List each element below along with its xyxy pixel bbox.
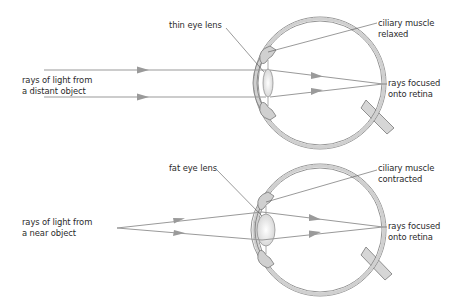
arrow-icon — [173, 230, 185, 236]
eye-distant — [44, 17, 394, 149]
leader-lens — [217, 170, 262, 216]
focus-label-bottom: rays focused onto retina — [388, 221, 440, 242]
eye-accommodation-diagram — [0, 0, 456, 302]
arrow-icon — [137, 67, 149, 74]
muscle-label-contracted: ciliary muscle contracted — [378, 163, 434, 184]
arrow-icon — [311, 72, 323, 79]
thin-lens — [263, 69, 273, 97]
eye-near — [117, 164, 392, 296]
arrow-icon — [137, 94, 149, 101]
source-label-distant: rays of light from a distant object — [22, 75, 92, 96]
fat-lens — [257, 214, 275, 246]
focus-label-top: rays focused onto retina — [388, 78, 440, 99]
lens-label-thin: thin eye lens — [169, 20, 222, 31]
muscle-label-relaxed: ciliary muscle relaxed — [378, 18, 434, 39]
source-label-near: rays of light from a near object — [22, 217, 92, 238]
lens-label-fat: fat eye lens — [169, 163, 217, 174]
leader-lens — [226, 28, 264, 72]
arrow-icon — [309, 214, 321, 221]
leader-muscle — [266, 170, 377, 202]
